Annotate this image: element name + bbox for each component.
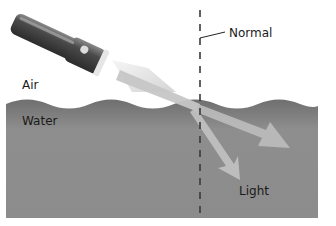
water-label: Water	[22, 114, 57, 128]
flashlight-icon	[7, 9, 109, 77]
light-label: Light	[239, 184, 269, 198]
air-label: Air	[22, 78, 38, 92]
normal-label: Normal	[229, 26, 272, 40]
normal-leader-line	[200, 32, 225, 38]
diagram-canvas	[0, 0, 336, 226]
refraction-diagram: Air Water Normal Light	[0, 0, 336, 226]
